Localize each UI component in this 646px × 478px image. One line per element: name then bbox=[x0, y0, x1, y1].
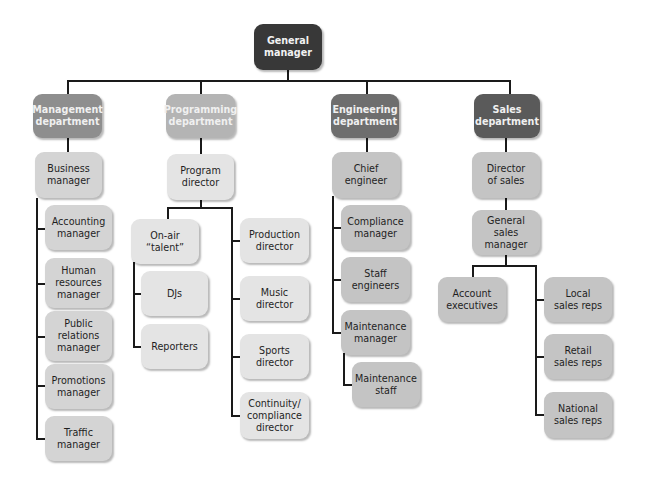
connector-hr bbox=[36, 283, 45, 285]
node-engineering-department: Engineering department bbox=[331, 94, 399, 138]
connector-prog-down bbox=[200, 80, 202, 94]
connector-compliance bbox=[332, 227, 341, 229]
node-djs: DJs bbox=[141, 271, 208, 316]
connector-continuity bbox=[231, 415, 240, 417]
connector-maint-mgr bbox=[332, 332, 341, 334]
node-director-of-sales: Director of sales bbox=[472, 152, 540, 198]
node-maintenance-staff: Maintenance staff bbox=[352, 362, 420, 407]
node-compliance-manager: Compliance manager bbox=[341, 205, 410, 250]
node-accounting-manager: Accounting manager bbox=[45, 205, 112, 250]
connector-prog-right-spine bbox=[231, 207, 233, 416]
node-maintenance-manager: Maintenance manager bbox=[341, 310, 410, 355]
node-music-director: Music director bbox=[240, 276, 309, 321]
connector-mgmt-business bbox=[67, 138, 69, 152]
connector-music bbox=[231, 298, 240, 300]
connector-eng-spine bbox=[332, 196, 334, 333]
connector-promotions bbox=[36, 385, 45, 387]
node-promotions-manager: Promotions manager bbox=[45, 364, 112, 409]
connector-prog-director bbox=[200, 138, 202, 154]
connector-staff bbox=[332, 279, 341, 281]
connector-djs bbox=[133, 293, 141, 295]
connector-eng-chief bbox=[366, 138, 368, 152]
connector-local bbox=[535, 299, 544, 301]
connector-production bbox=[231, 240, 240, 242]
node-programming-department: Programming department bbox=[166, 94, 235, 138]
node-production-director: Production director bbox=[240, 218, 309, 263]
connector-account-up bbox=[472, 265, 474, 277]
node-human-resources-manager: Human resources manager bbox=[45, 258, 112, 308]
connector-mgmt-down bbox=[67, 80, 69, 94]
connector-accounting bbox=[36, 228, 45, 230]
connector-sales-gsm bbox=[505, 198, 507, 210]
node-staff-engineers: Staff engineers bbox=[341, 257, 410, 302]
connector-onair-up bbox=[167, 207, 169, 219]
connector-onair-spine bbox=[133, 262, 135, 347]
node-local-sales-reps: Local sales reps bbox=[544, 277, 612, 322]
connector-reporters bbox=[133, 346, 141, 348]
connector-maint-spine bbox=[343, 353, 345, 385]
connector-sales-split bbox=[472, 265, 536, 267]
node-business-manager: Business manager bbox=[35, 152, 102, 198]
connector-sales-director bbox=[505, 138, 507, 152]
node-program-director: Program director bbox=[167, 154, 234, 200]
node-retail-sales-reps: Retail sales reps bbox=[544, 334, 612, 379]
node-account-executives: Account executives bbox=[438, 277, 506, 322]
connector-sales-down bbox=[509, 80, 511, 94]
node-chief-engineer: Chief engineer bbox=[332, 152, 400, 198]
connector-dept-bar bbox=[67, 80, 511, 82]
node-management-department: Management department bbox=[33, 94, 102, 138]
connector-prog-split bbox=[167, 207, 233, 209]
node-on-air-talent: On-air “talent” bbox=[131, 219, 199, 264]
node-general-sales-manager: General sales manager bbox=[472, 210, 540, 255]
connector-retail bbox=[535, 356, 544, 358]
connector-sports bbox=[231, 356, 240, 358]
node-sales-department: Sales department bbox=[474, 94, 540, 138]
node-general-manager: General manager bbox=[254, 24, 322, 70]
connector-mgmt-spine bbox=[36, 198, 38, 439]
connector-eng-down bbox=[366, 80, 368, 94]
node-reporters: Reporters bbox=[141, 324, 208, 369]
connector-pr bbox=[36, 336, 45, 338]
node-sports-director: Sports director bbox=[240, 334, 309, 379]
connector-traffic bbox=[36, 438, 45, 440]
node-traffic-manager: Traffic manager bbox=[45, 416, 112, 461]
connector-sales-right-spine bbox=[535, 265, 537, 415]
node-continuity-compliance-director: Continuity/ compliance director bbox=[240, 392, 309, 439]
org-chart: General manager Management department Pr… bbox=[0, 0, 646, 478]
connector-national bbox=[535, 414, 544, 416]
connector-maint-staff bbox=[343, 384, 352, 386]
node-public-relations-manager: Public relations manager bbox=[45, 311, 112, 361]
node-national-sales-reps: National sales reps bbox=[544, 392, 612, 438]
